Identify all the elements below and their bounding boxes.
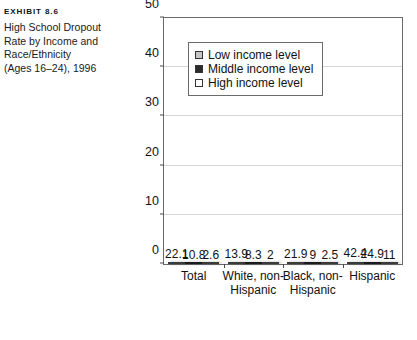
legend-item-label: Middle income level	[208, 62, 313, 76]
bar[interactable]	[304, 262, 321, 264]
exhibit-title-line: Rate by Income and	[4, 35, 126, 49]
bar[interactable]	[287, 262, 304, 264]
bar[interactable]	[202, 262, 219, 264]
y-axis-tick-label: 50	[145, 0, 159, 11]
x-axis-tick	[343, 264, 344, 268]
x-axis-category-label: Hispanic	[349, 270, 395, 284]
y-axis-tick-label: 20	[145, 145, 159, 159]
bar-value-label: 2.5	[321, 248, 338, 262]
legend-item-label: Low income level	[208, 48, 300, 62]
bar-wrapper: 21.9	[287, 262, 304, 264]
bar-wrapper: 2.5	[321, 262, 338, 264]
y-axis-tick-label: 10	[145, 194, 159, 208]
bar-wrapper: 9	[304, 262, 321, 264]
bar-value-label: 8.3	[245, 248, 262, 262]
x-axis-category-label: White, non-Hispanic	[223, 270, 284, 297]
x-axis-tick	[224, 264, 225, 268]
legend-swatch-icon	[195, 79, 203, 87]
bar-wrapper: 24.9	[364, 262, 381, 264]
bar[interactable]	[381, 262, 398, 264]
bar-wrapper: 10.8	[185, 262, 202, 264]
bar-value-label: 24.9	[361, 247, 384, 261]
bar-wrapper: 42.4	[347, 262, 364, 264]
y-axis-tick-label: 0	[152, 243, 159, 257]
bar-value-label: 2.6	[202, 248, 219, 262]
bar[interactable]	[347, 262, 364, 264]
exhibit-number: EXHIBIT 8.6	[4, 7, 126, 16]
bar-wrapper: 13.9	[228, 262, 245, 264]
exhibit-title-line: High School Dropout	[4, 21, 126, 35]
bar-value-label: 21.9	[284, 247, 307, 261]
bar-value-label: 2	[267, 248, 274, 262]
exhibit-title-line: (Ages 16–24), 1996	[4, 62, 126, 76]
y-axis-tick-label: 30	[145, 95, 159, 109]
y-axis-tick-label: 40	[145, 46, 159, 60]
bar[interactable]	[168, 262, 185, 264]
x-axis-category-label-line: Hispanic	[283, 284, 343, 298]
bar-value-label: 9	[309, 248, 316, 262]
bar-value-label: 11	[383, 248, 395, 262]
legend-item[interactable]: High income level	[195, 76, 313, 90]
exhibit-caption-block: EXHIBIT 8.6 High School Dropout Rate by …	[4, 7, 126, 75]
x-axis-tick	[283, 264, 284, 268]
bar-group: 42.424.911	[343, 18, 403, 264]
x-axis-category-label: Black, non-Hispanic	[283, 270, 343, 297]
bar-wrapper: 2	[262, 262, 279, 264]
x-axis-category-label-line: White, non-	[223, 270, 284, 284]
legend-item[interactable]: Low income level	[195, 48, 313, 62]
bar[interactable]	[185, 262, 202, 264]
bar[interactable]	[262, 262, 279, 264]
bar[interactable]	[364, 262, 381, 264]
bar[interactable]	[228, 262, 245, 264]
x-axis-category-label-line: Hispanic	[223, 284, 284, 298]
x-axis-category-label-line: Total	[181, 270, 206, 284]
exhibit-title-line: Race/Ethnicity	[4, 48, 126, 62]
legend-item[interactable]: Middle income level	[195, 62, 313, 76]
exhibit-title: High School Dropout Rate by Income and R…	[4, 21, 126, 75]
legend-swatch-icon	[195, 51, 203, 59]
bar-wrapper: 11	[381, 262, 398, 264]
source-note-cutoff	[100, 335, 400, 340]
bar-wrapper: 22.1	[168, 262, 185, 264]
bar-chart: 01020304050 22.110.82.613.98.3221.992.54…	[133, 10, 405, 293]
chart-legend: Low income levelMiddle income levelHigh …	[188, 42, 323, 96]
legend-swatch-icon	[195, 65, 203, 73]
bar-wrapper: 2.6	[202, 262, 219, 264]
x-axis-category-label: Total	[181, 270, 206, 284]
x-axis-category-label-line: Black, non-	[283, 270, 343, 284]
bar-wrapper: 8.3	[245, 262, 262, 264]
x-axis-category-label-line: Hispanic	[349, 270, 395, 284]
bar[interactable]	[245, 262, 262, 264]
bar[interactable]	[321, 262, 338, 264]
plot-area: 01020304050 22.110.82.613.98.3221.992.54…	[163, 17, 403, 265]
legend-item-label: High income level	[208, 76, 303, 90]
